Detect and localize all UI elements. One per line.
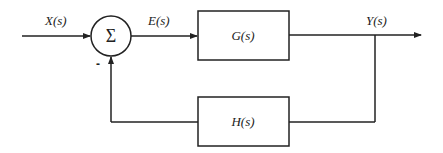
block-diagram: X(s) Σ - E(s) G(s) Y(s) H(s) bbox=[0, 0, 443, 153]
input-label: X(s) bbox=[44, 13, 67, 28]
sigma-symbol: Σ bbox=[106, 26, 116, 46]
output-label: Y(s) bbox=[366, 13, 387, 28]
error-label: E(s) bbox=[147, 13, 170, 28]
feedback-block-label: H(s) bbox=[230, 114, 254, 129]
minus-sign: - bbox=[96, 57, 100, 71]
forward-block-label: G(s) bbox=[231, 28, 254, 43]
